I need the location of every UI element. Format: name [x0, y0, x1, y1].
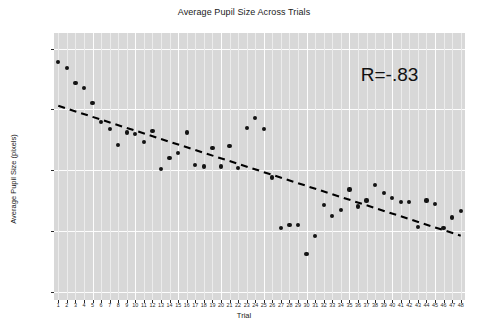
data-point — [125, 130, 129, 134]
data-point — [399, 200, 403, 204]
x-tick-mark — [375, 300, 376, 303]
data-point — [227, 144, 231, 148]
x-tick-mark — [358, 300, 359, 303]
data-point — [382, 191, 386, 195]
data-point — [424, 198, 428, 202]
x-tick-mark — [204, 300, 205, 303]
x-tick-mark — [324, 300, 325, 303]
x-tick-mark — [435, 300, 436, 303]
x-tick-mark — [170, 300, 171, 303]
x-tick-mark — [75, 300, 76, 303]
x-tick-mark — [401, 300, 402, 303]
data-point — [373, 183, 377, 187]
x-tick-mark — [230, 300, 231, 303]
x-tick-mark — [307, 300, 308, 303]
data-point — [150, 129, 154, 133]
x-tick-mark — [367, 300, 368, 303]
data-point — [219, 164, 223, 168]
x-tick-mark — [289, 300, 290, 303]
x-tick-mark — [195, 300, 196, 303]
x-tick-mark — [238, 300, 239, 303]
x-tick-mark — [161, 300, 162, 303]
data-point — [313, 234, 317, 238]
x-tick-mark — [332, 300, 333, 303]
data-point — [210, 146, 214, 150]
scatter-plot-figure: Average Pupil Size Across Trials Average… — [0, 0, 488, 333]
x-tick-mark — [84, 300, 85, 303]
x-tick-mark — [444, 300, 445, 303]
x-tick-mark — [187, 300, 188, 303]
x-tick-mark — [349, 300, 350, 303]
y-axis-title-text: Average Pupil Size (pixels) — [9, 104, 18, 254]
x-tick-mark — [118, 300, 119, 303]
data-point — [270, 175, 274, 179]
x-tick-mark — [127, 300, 128, 303]
x-tick-mark — [392, 300, 393, 303]
y-axis-title: Average Pupil Size (pixels) — [9, 0, 18, 104]
data-point — [364, 198, 368, 202]
x-tick-mark — [341, 300, 342, 303]
x-tick-mark — [452, 300, 453, 303]
x-tick-mark — [212, 300, 213, 303]
x-tick-mark — [152, 300, 153, 303]
data-point — [82, 86, 86, 90]
data-point — [287, 223, 291, 227]
x-tick-mark — [426, 300, 427, 303]
data-point — [236, 166, 240, 170]
x-tick-mark — [272, 300, 273, 303]
x-tick-mark — [298, 300, 299, 303]
x-tick-mark — [315, 300, 316, 303]
x-tick-mark — [221, 300, 222, 303]
x-tick-mark — [93, 300, 94, 303]
data-point — [116, 143, 120, 147]
x-tick-mark — [144, 300, 145, 303]
x-tick-mark — [264, 300, 265, 303]
data-point — [356, 204, 360, 208]
chart-title: Average Pupil Size Across Trials — [0, 7, 488, 17]
x-tick-mark — [461, 300, 462, 303]
x-tick-mark — [178, 300, 179, 303]
data-point — [185, 130, 189, 134]
x-tick-mark — [110, 300, 111, 303]
data-point — [202, 164, 206, 168]
x-tick-mark — [281, 300, 282, 303]
x-tick-mark — [101, 300, 102, 303]
data-point — [296, 223, 300, 227]
data-point — [73, 81, 77, 85]
x-tick-mark — [247, 300, 248, 303]
correlation-annotation: R=-.83 — [361, 64, 419, 86]
data-point — [167, 156, 171, 160]
data-point — [450, 215, 454, 219]
x-tick-mark — [384, 300, 385, 303]
data-point — [304, 252, 308, 256]
data-point — [347, 187, 351, 191]
data-point — [262, 127, 266, 131]
x-tick-mark — [67, 300, 68, 303]
x-tick-mark — [58, 300, 59, 303]
data-point — [245, 126, 249, 130]
x-tick-mark — [418, 300, 419, 303]
x-axis-title: Trial — [0, 311, 488, 320]
data-point — [99, 120, 103, 124]
x-tick-mark — [409, 300, 410, 303]
trendline-segment — [58, 106, 460, 236]
x-tick-mark — [255, 300, 256, 303]
data-point — [108, 127, 112, 131]
x-tick-mark — [135, 300, 136, 303]
